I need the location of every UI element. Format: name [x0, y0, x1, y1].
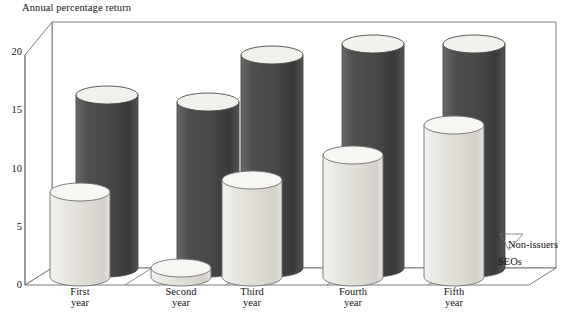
y-axis-title: Annual percentage return [22, 2, 131, 13]
y-tick-label-20: 20 [2, 46, 22, 57]
legend-label-seos: SEOs [498, 256, 522, 267]
category-label-first-year: First year [48, 286, 112, 308]
category-label-second-year: Second year [149, 286, 213, 308]
category-label-line1: Fifth [444, 286, 464, 297]
left-wall [25, 22, 52, 285]
legend-label-non-issuers: Non-issuers [508, 239, 558, 250]
bar-seos-fourth-year [323, 146, 383, 286]
category-label-line2: year [220, 297, 284, 308]
y-tick-label-10: 10 [2, 163, 22, 174]
y-tick-label-0: 0 [2, 279, 22, 290]
category-label-third-year: Third year [220, 286, 284, 308]
bar-seos-fifth-year [424, 116, 484, 286]
category-label-fourth-year: Fourth year [321, 286, 385, 308]
category-label-line1: Second [166, 286, 197, 297]
category-label-line1: First [70, 286, 89, 297]
chart-plot-area [0, 0, 566, 312]
category-label-line1: Fourth [339, 286, 367, 297]
category-label-line2: year [149, 297, 213, 308]
category-label-line2: year [422, 297, 486, 308]
category-label-line1: Third [240, 286, 263, 297]
chart-container: Annual percentage return 20 15 10 5 0 Fi… [0, 0, 566, 312]
category-label-line2: year [321, 297, 385, 308]
bar-seos-first-year [50, 183, 110, 286]
category-label-line2: year [48, 297, 112, 308]
y-tick-label-5: 5 [2, 221, 22, 232]
bar-seos-second-year [151, 259, 211, 286]
y-tick-label-15: 15 [2, 104, 22, 115]
bar-seos-third-year [222, 171, 282, 286]
category-label-fifth-year: Fifth year [422, 286, 486, 308]
